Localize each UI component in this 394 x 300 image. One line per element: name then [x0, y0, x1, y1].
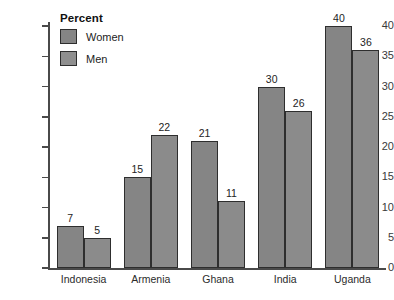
- y-tick-25: [42, 116, 48, 118]
- bar-value-indonesia-men: 5: [80, 224, 115, 236]
- bar-india-women: [258, 87, 285, 269]
- legend-title: Percent: [60, 12, 124, 24]
- legend-label-men: Men: [86, 53, 107, 65]
- bar-indonesia-men: [84, 238, 111, 268]
- legend-item-women: Women: [60, 29, 124, 44]
- y-tick-10: [42, 207, 48, 209]
- legend-swatch-women: [60, 29, 77, 44]
- bar-value-ghana-men: 11: [214, 187, 249, 199]
- category-label-ghana: Ghana: [184, 273, 251, 285]
- bar-armenia-men: [151, 135, 178, 268]
- category-label-india: India: [252, 273, 319, 285]
- bar-value-uganda-women: 40: [321, 12, 356, 24]
- bar-value-armenia-women: 15: [120, 163, 155, 175]
- legend-item-men: Men: [60, 51, 124, 66]
- y-tick-30: [42, 86, 48, 88]
- category-label-armenia: Armenia: [117, 273, 184, 285]
- bar-value-indonesia-women: 7: [53, 212, 88, 224]
- category-label-indonesia: Indonesia: [50, 273, 117, 285]
- bar-uganda-men: [352, 50, 379, 268]
- bar-ghana-women: [191, 141, 218, 268]
- bar-value-uganda-men: 36: [348, 36, 383, 48]
- bar-armenia-women: [124, 177, 151, 268]
- y-tick-20: [42, 146, 48, 148]
- y-tick-15: [42, 177, 48, 179]
- y-tick-label-40: 40: [360, 20, 394, 30]
- y-tick-0: [42, 267, 48, 269]
- bar-value-india-women: 30: [254, 73, 289, 85]
- y-tick-40: [42, 25, 48, 27]
- legend-label-women: Women: [86, 31, 124, 43]
- bar-value-armenia-men: 22: [147, 121, 182, 133]
- bar-uganda-women: [325, 26, 352, 268]
- y-tick-5: [42, 237, 48, 239]
- bar-ghana-men: [218, 201, 245, 268]
- bar-chart: 0510152025303540 751522211130264036 Indo…: [0, 0, 394, 300]
- y-axis-line: [48, 22, 50, 269]
- legend-swatch-men: [60, 51, 77, 66]
- bar-value-ghana-women: 21: [187, 127, 222, 139]
- y-tick-35: [42, 56, 48, 58]
- category-label-uganda: Uganda: [319, 273, 386, 285]
- bar-india-men: [285, 111, 312, 268]
- bar-value-india-men: 26: [281, 97, 316, 109]
- legend: Percent Women Men: [60, 12, 124, 73]
- x-axis-line: [48, 268, 386, 270]
